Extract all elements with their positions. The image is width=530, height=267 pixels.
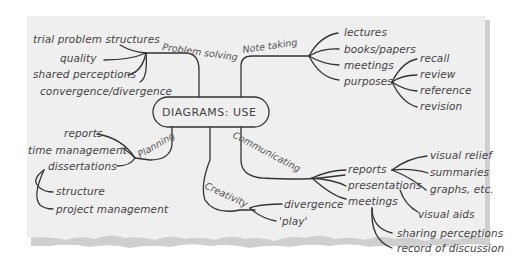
note-taking-item: books/papers: [344, 43, 416, 55]
mind-map-canvas: DIAGRAMS: USE Problem solving trial prob…: [0, 0, 530, 267]
presentations-item: visual aids: [418, 208, 475, 220]
center-label: DIAGRAMS: USE: [162, 106, 256, 119]
creativity-item: 'play': [279, 215, 308, 227]
problem-solving-item: convergence/divergence: [40, 85, 172, 97]
problem-solving-item: quality: [60, 52, 97, 64]
problem-solving-item: shared perceptions: [33, 68, 136, 80]
planning-item: time management: [28, 144, 128, 156]
note-taking-item: purposes: [343, 75, 393, 87]
creativity-item: divergence: [284, 198, 344, 210]
communicating-item: meetings: [348, 195, 398, 207]
communicating-item: reports: [348, 163, 387, 175]
note-taking-item: meetings: [344, 59, 394, 71]
purposes-item: review: [420, 68, 456, 80]
dissertations-item: project management: [55, 203, 169, 215]
dissertations-item: structure: [56, 185, 105, 197]
communicating-item: presentations: [347, 179, 422, 191]
meetings-item: sharing perceptions: [397, 227, 504, 239]
purposes-item: recall: [420, 52, 449, 64]
note-taking-item: lectures: [344, 26, 387, 38]
planning-item: reports: [64, 127, 103, 139]
planning-item: dissertations: [48, 160, 117, 172]
reports-item: summaries: [430, 166, 490, 178]
meetings-item: record of discussion: [397, 242, 504, 254]
problem-solving-item: trial problem structures: [33, 33, 160, 45]
reports-item: graphs, etc.: [430, 183, 494, 195]
purposes-item: reference: [420, 84, 472, 96]
reports-item: visual relief: [430, 149, 494, 161]
purposes-item: revision: [420, 100, 462, 112]
